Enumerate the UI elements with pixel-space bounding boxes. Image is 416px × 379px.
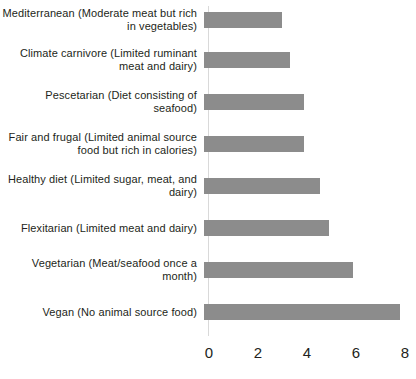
bar-row: Fair and frugal (Limited animal source f…	[0, 124, 416, 164]
bar-track	[203, 250, 416, 290]
bar-row: Climate carnivore (Limited ruminant meat…	[0, 40, 416, 80]
bar-track	[203, 208, 416, 248]
x-tick-label: 2	[243, 344, 273, 362]
bar-row: Healthy diet (Limited sugar, meat, and d…	[0, 166, 416, 206]
bar-row: Vegetarian (Meat/seafood once a month)	[0, 250, 416, 290]
bar-track	[203, 82, 416, 122]
bar-track	[203, 166, 416, 206]
bar-track	[203, 124, 416, 164]
x-tick-label: 8	[390, 344, 416, 362]
category-label: Mediterranean (Moderate meat but rich in…	[0, 7, 203, 33]
category-label: Vegetarian (Meat/seafood once a month)	[0, 257, 203, 283]
bar-track	[203, 0, 416, 40]
category-label: Climate carnivore (Limited ruminant meat…	[0, 47, 203, 73]
bar-row: Mediterranean (Moderate meat but rich in…	[0, 0, 416, 40]
x-tick-label: 0	[194, 344, 224, 362]
bar-row: Pescetarian (Diet consisting of seafood)	[0, 82, 416, 122]
category-label: Flexitarian (Limited meat and dairy)	[0, 222, 203, 235]
bar	[204, 220, 329, 236]
bar-track	[203, 292, 416, 332]
x-tick-label: 4	[292, 344, 322, 362]
x-tick-label: 6	[341, 344, 371, 362]
bar	[204, 94, 304, 110]
category-label: Pescetarian (Diet consisting of seafood)	[0, 89, 203, 115]
category-label: Fair and frugal (Limited animal source f…	[0, 131, 203, 157]
bar-row: Vegan (No animal source food)	[0, 292, 416, 332]
x-axis: 0 2 4 6 8	[0, 336, 416, 379]
bar-track	[203, 40, 416, 80]
bar-chart: Mediterranean (Moderate meat but rich in…	[0, 0, 416, 379]
category-label: Healthy diet (Limited sugar, meat, and d…	[0, 173, 203, 199]
bar	[204, 12, 282, 28]
category-label: Vegan (No animal source food)	[0, 306, 203, 319]
bar	[204, 136, 304, 152]
bar	[204, 178, 320, 194]
x-axis-rule	[208, 336, 406, 337]
plot-area: Mediterranean (Moderate meat but rich in…	[0, 0, 416, 340]
bar	[204, 304, 400, 320]
bar-rows: Mediterranean (Moderate meat but rich in…	[0, 0, 416, 340]
bar	[204, 262, 353, 278]
bar-row: Flexitarian (Limited meat and dairy)	[0, 208, 416, 248]
bar	[204, 52, 290, 68]
